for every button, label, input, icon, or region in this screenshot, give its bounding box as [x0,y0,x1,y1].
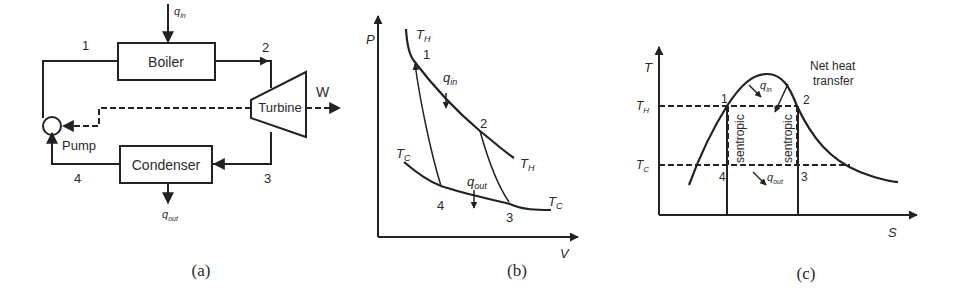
state-label-1-a: 1 [82,38,89,53]
th-label-top: TH [416,27,431,44]
line-state-3 [213,132,271,164]
turbine-label: Turbine [258,100,302,115]
heat-in-label-a: qin [174,5,186,19]
heat-out-arrow-c-icon [753,172,766,185]
p-axis-label: P [366,32,375,47]
heat-out-label-a: qout [162,208,179,222]
tc-label-right: TC [548,194,563,211]
adiabat-4-1 [415,64,441,186]
heat-out-label-c: qout [767,171,784,185]
figure-canvas: Boiler qin 1 2 Turbine W 3 Condenser qo [0,0,955,303]
condenser-label: Condenser [132,157,201,173]
net-heat-label-line2: transfer [813,74,854,88]
net-heat-arrow-icon [775,84,788,112]
heat-in-label-b: qin [443,70,457,87]
state-label-3-b: 3 [506,210,513,225]
s-axis-label: S [888,225,897,240]
pump-icon [43,117,61,135]
heat-out-label-b: qout [467,174,487,191]
tc-label-left: TC [396,146,411,163]
pump-label: Pump [62,138,96,153]
panel-b-pv-diagram: P V TH TH TC TC qin qout 1 2 3 4 (b) [366,16,578,280]
state-label-3-a: 3 [264,171,271,186]
caption-a: (a) [192,261,211,280]
state-label-4-b: 4 [437,198,444,213]
v-axis-label: V [560,246,570,261]
heat-in-label-c: qin [760,79,772,93]
th-level-label: TH [636,99,649,115]
t-axis-label: T [644,60,653,75]
turbine-component: Turbine [251,72,306,137]
pump-work-dashed-line [63,108,251,126]
line-state-1 [43,61,118,118]
th-label-right: TH [520,156,535,173]
state-label-4-a: 4 [74,171,81,186]
state-label-3-c: 3 [801,170,808,184]
net-heat-label-line1: Net heat [810,59,856,73]
state-label-1-b: 1 [423,47,430,62]
tc-level-label: TC [636,158,649,174]
line-state-2 [215,61,271,88]
state-label-2-a: 2 [262,40,269,55]
isentropic-label-left: sentropic [733,114,747,163]
state-label-2-c: 2 [803,93,810,107]
state-label-4-c: 4 [719,170,726,184]
panel-c-ts-diagram: T S TH TC sentropic sentropic qin Net he… [636,47,917,283]
pump-component: Pump [43,117,96,153]
panel-a-schematic: Boiler qin 1 2 Turbine W 3 Condenser qo [43,4,340,280]
state-label-1-c: 1 [721,92,728,106]
isentropic-label-right: sentropic [781,114,795,163]
work-label: W [316,84,330,100]
condenser-component: Condenser [120,146,212,183]
caption-c: (c) [797,264,816,283]
state-label-2-b: 2 [480,116,487,131]
boiler-label: Boiler [148,54,184,70]
boiler-component: Boiler [118,43,215,80]
caption-b: (b) [507,261,527,280]
